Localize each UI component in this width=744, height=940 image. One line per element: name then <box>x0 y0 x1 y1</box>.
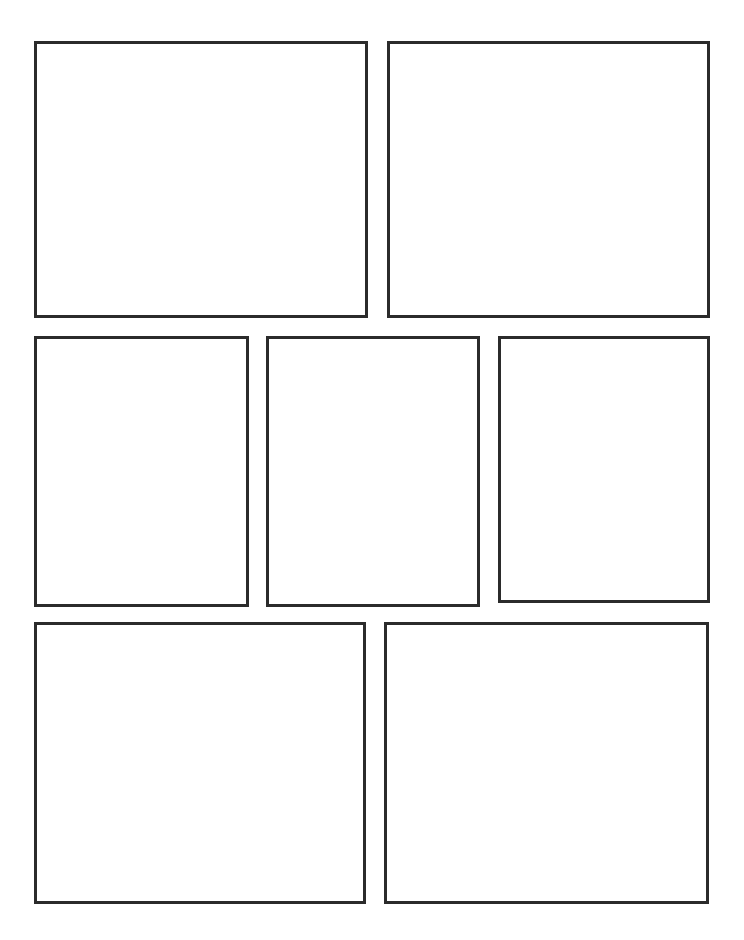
comic-panel-4[interactable] <box>266 336 480 607</box>
comic-panel-7[interactable] <box>384 622 709 904</box>
comic-page <box>0 0 744 940</box>
comic-panel-3[interactable] <box>34 336 249 607</box>
comic-panel-2[interactable] <box>387 41 710 318</box>
comic-panel-5[interactable] <box>498 336 710 603</box>
comic-panel-1[interactable] <box>34 41 368 318</box>
comic-panel-6[interactable] <box>34 622 366 904</box>
